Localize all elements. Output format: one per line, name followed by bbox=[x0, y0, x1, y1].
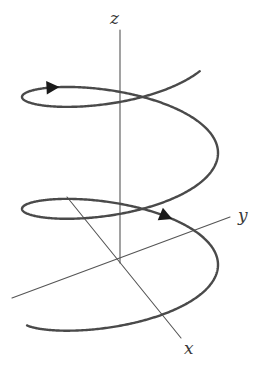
x-axis-label: x bbox=[184, 340, 194, 357]
upper-arrowhead bbox=[46, 81, 59, 95]
helix-diagram-canvas bbox=[0, 0, 269, 371]
y-axis-label: y bbox=[238, 207, 248, 224]
helix-figure: z y x bbox=[0, 0, 269, 371]
y-axis-line bbox=[12, 217, 230, 298]
z-axis-label: z bbox=[110, 10, 119, 27]
